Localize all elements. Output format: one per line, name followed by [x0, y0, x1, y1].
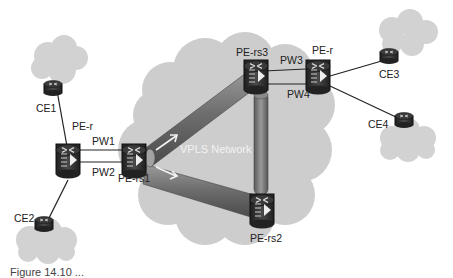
- ce1-cloud: [31, 35, 88, 84]
- label-pe-rs2: PE-rs2: [250, 232, 282, 244]
- label-pe-rs1: PE-rs1: [118, 172, 150, 184]
- router-icon-pe-rs3[interactable]: [244, 60, 268, 95]
- label-pw1: PW1: [92, 135, 115, 147]
- label-ce1: CE1: [36, 102, 57, 114]
- label-pe-r-right: PE-r: [312, 44, 334, 56]
- figure-caption: Figure 14.10 ...: [10, 266, 84, 278]
- label-pe-rs3: PE-rs3: [236, 46, 268, 58]
- label-pe-r-left: PE-r: [72, 120, 94, 132]
- tunnel-rs3-rs2: [254, 92, 268, 195]
- router-icon-ce1[interactable]: [44, 81, 62, 97]
- label-ce4: CE4: [368, 118, 389, 130]
- label-pw2: PW2: [92, 166, 115, 178]
- label-ce2: CE2: [14, 212, 35, 224]
- router-icon-pe-r-left[interactable]: [56, 144, 80, 179]
- router-icon-ce3[interactable]: [380, 49, 398, 65]
- label-ce3: CE3: [379, 68, 400, 80]
- label-pw4: PW4: [287, 88, 310, 100]
- label-vpls-network: VPLS Network: [180, 143, 252, 155]
- label-pw3: PW3: [280, 54, 303, 66]
- router-icon-pe-rs2[interactable]: [250, 194, 274, 229]
- router-icon-ce4[interactable]: [395, 113, 413, 129]
- router-icon-ce2[interactable]: [35, 217, 53, 233]
